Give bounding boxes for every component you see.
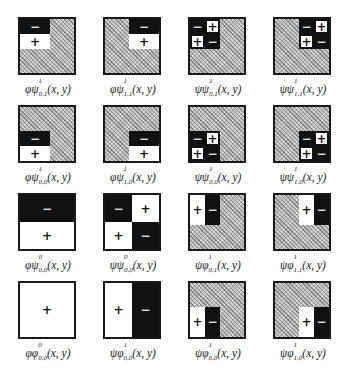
plus-sign-icon: + [132, 195, 159, 222]
basis-arguments: (x, y) [47, 347, 71, 359]
index-subscript: 0,0 [209, 354, 218, 362]
scale-superscript: 1 [124, 341, 128, 349]
plus-sign-icon: + [299, 307, 314, 337]
basis-label: ψψ00,0(x, y) [97, 259, 169, 274]
index-subscript: 1,0 [124, 178, 133, 186]
basis-image: −+ [18, 193, 76, 251]
basis-symbol: ψψ [280, 83, 294, 95]
scale-superscript: 1 [209, 253, 213, 261]
plus-sign-icon: + [299, 34, 314, 49]
basis-image: −++− [273, 17, 331, 75]
basis-label: φψ11,1(x, y) [97, 83, 169, 98]
basis-arguments: (x, y) [303, 83, 327, 95]
plus-sign-icon: + [20, 222, 74, 249]
scale-superscript: 1 [209, 165, 213, 173]
basis-arguments: (x, y) [132, 171, 156, 183]
basis-image: +− [273, 193, 331, 251]
basis-arguments: (x, y) [302, 259, 326, 271]
basis-label: ψφ10,0(x, y) [97, 347, 169, 362]
basis-image: +− [188, 281, 246, 339]
index-subscript: 0,1 [209, 266, 218, 274]
scale-superscript: 1 [39, 165, 43, 173]
basis-label: ψφ11,0(x, y) [267, 347, 339, 362]
plus-sign-icon: + [299, 195, 314, 225]
basis-label: ψφ11,1(x, y) [267, 259, 339, 274]
basis-label: ψφ10,0(x, y) [182, 347, 254, 362]
basis-arguments: (x, y) [217, 259, 241, 271]
plus-sign-icon: + [20, 146, 50, 161]
plus-sign-icon: + [299, 146, 314, 161]
plus-sign-icon: + [190, 34, 205, 49]
plus-sign-icon: + [190, 307, 205, 337]
basis-arguments: (x, y) [47, 83, 71, 95]
index-subscript: 1,1 [124, 90, 133, 98]
basis-symbol: φψ [25, 259, 39, 271]
scale-superscript: 1 [124, 165, 128, 173]
scale-superscript: 1 [294, 253, 298, 261]
basis-image: −++− [188, 17, 246, 75]
minus-sign-icon: − [132, 222, 159, 249]
scale-superscript: 1 [294, 165, 298, 173]
plus-sign-icon: + [205, 19, 220, 34]
scale-superscript: 0 [38, 341, 42, 349]
basis-arguments: (x, y) [132, 83, 156, 95]
index-subscript: 0,1 [39, 90, 48, 98]
basis-arguments: (x, y) [47, 171, 71, 183]
basis-arguments: (x, y) [218, 171, 242, 183]
minus-sign-icon: − [205, 307, 220, 337]
basis-symbol: ψψ [195, 171, 209, 183]
minus-sign-icon: − [314, 146, 329, 161]
plus-sign-icon: + [129, 146, 159, 161]
basis-image: + [18, 281, 76, 339]
basis-symbol: φψ [25, 171, 39, 183]
minus-sign-icon: − [190, 19, 205, 34]
basis-image: +− [103, 281, 161, 339]
scale-superscript: 1 [124, 77, 128, 85]
basis-symbol: ψφ [280, 259, 294, 271]
basis-arguments: (x, y) [218, 83, 242, 95]
minus-sign-icon: − [314, 307, 329, 337]
minus-sign-icon: − [205, 195, 220, 225]
basis-symbol: ψφ [195, 347, 209, 359]
basis-symbol: ψψ [280, 171, 294, 183]
basis-symbol: φφ [25, 347, 38, 359]
basis-label: φψ10,0(x, y) [12, 171, 84, 186]
basis-label: ψψ10,1(x, y) [182, 83, 254, 98]
plus-sign-icon: + [190, 195, 205, 225]
minus-sign-icon: − [299, 131, 314, 146]
basis-arguments: (x, y) [47, 259, 71, 271]
basis-symbol: φψ [25, 83, 39, 95]
index-subscript: 1,0 [294, 354, 303, 362]
basis-image: +− [273, 281, 331, 339]
minus-sign-icon: − [132, 283, 159, 337]
index-subscript: 1,1 [294, 90, 303, 98]
basis-image: +− [188, 193, 246, 251]
basis-label: φψ00,0(x, y) [12, 259, 84, 274]
minus-sign-icon: − [20, 19, 50, 34]
basis-image: −+ [103, 105, 161, 163]
basis-image: −++− [273, 105, 331, 163]
index-subscript: 0,0 [39, 178, 48, 186]
basis-image: −+ [18, 105, 76, 163]
minus-sign-icon: − [190, 131, 205, 146]
minus-sign-icon: − [314, 195, 329, 225]
plus-sign-icon: + [314, 19, 329, 34]
index-subscript: 0,0 [124, 354, 133, 362]
scale-superscript: 1 [294, 341, 298, 349]
basis-image: −++− [188, 105, 246, 163]
index-subscript: 0,0 [39, 266, 48, 274]
scale-superscript: 1 [209, 341, 213, 349]
plus-sign-icon: + [129, 34, 159, 49]
minus-sign-icon: − [129, 19, 159, 34]
index-subscript: 0,0 [124, 266, 133, 274]
basis-symbol: ψψ [110, 259, 124, 271]
plus-sign-icon: + [190, 146, 205, 161]
basis-image: −+ [103, 17, 161, 75]
scale-superscript: 0 [124, 253, 128, 261]
basis-symbol: ψφ [110, 347, 124, 359]
basis-arguments: (x, y) [303, 171, 327, 183]
minus-sign-icon: − [129, 131, 159, 146]
minus-sign-icon: − [205, 146, 220, 161]
basis-label: φψ10,1(x, y) [12, 83, 84, 98]
plus-sign-icon: + [314, 131, 329, 146]
